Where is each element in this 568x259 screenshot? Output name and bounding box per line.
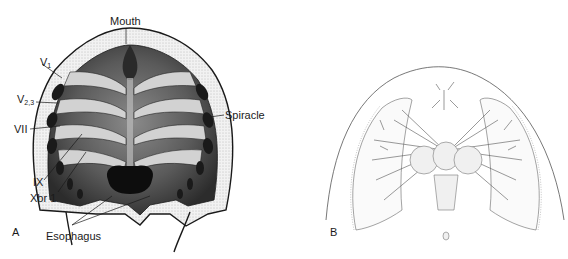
- label-mouth: Mouth: [110, 15, 141, 27]
- label-vii: VII: [14, 123, 27, 135]
- panel-b-vascular-view: B: [284, 0, 568, 259]
- midline: [127, 78, 133, 178]
- panel-letter-b: B: [330, 226, 337, 238]
- label-esophagus: Esophagus: [46, 230, 101, 242]
- esophagus-opening: [107, 166, 153, 194]
- panel-a-ventral-view: Mouth V1 V2,3 VII Spiracle IX Xbr 1 Esop…: [0, 0, 284, 259]
- central-organs: [410, 142, 482, 240]
- label-xbr1: Xbr 1: [30, 192, 56, 204]
- label-spiracle: Spiracle: [225, 109, 265, 121]
- panel-letter-a: A: [12, 226, 19, 238]
- label-v23: V2,3: [17, 93, 34, 109]
- panel-a-illustration: [0, 0, 284, 259]
- panel-b-illustration: [284, 0, 568, 259]
- label-ix: IX: [33, 176, 43, 188]
- label-v1: V1: [40, 56, 51, 72]
